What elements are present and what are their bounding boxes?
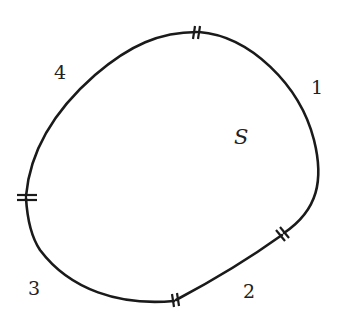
segment-label-3: 3 (28, 279, 40, 298)
curve-segment-3 (26, 198, 174, 302)
segment-label-1: 1 (311, 78, 323, 97)
segment-label-4: 4 (54, 63, 66, 82)
region-label-s: S (234, 127, 248, 148)
segment-label-2: 2 (243, 282, 255, 301)
curve-segment-4 (26, 32, 197, 196)
curve-segment-2 (176, 235, 282, 300)
closed-curve-diagram (0, 0, 348, 323)
curve-segment-1 (199, 32, 318, 233)
